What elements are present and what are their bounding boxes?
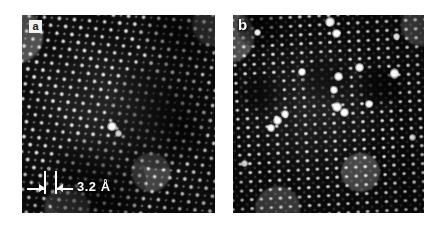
micrograph-panel-a: a 3.2 Å [22,15,215,213]
figure-root: a 3.2 Å [0,0,448,229]
column-contrast-b [233,15,424,213]
panel-label-a: a [29,20,42,33]
scale-bar-line-right [57,188,73,190]
scale-bar-a: 3.2 Å [25,171,137,201]
panel-label-b: b [238,17,247,33]
scale-bar-tick-left [44,171,46,194]
micrograph-panel-b: b [233,15,424,213]
scale-bar-label-a: 3.2 Å [77,179,111,194]
